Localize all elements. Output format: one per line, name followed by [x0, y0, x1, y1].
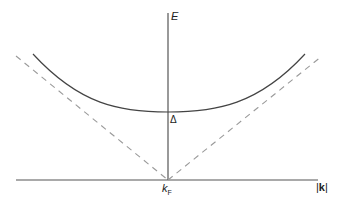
- gap-label: Δ: [170, 115, 177, 125]
- dashed-line-left: [16, 56, 168, 180]
- fermi-subscript: F: [168, 189, 172, 196]
- fermi-wavevector-label: kF: [162, 183, 172, 196]
- dashed-line-right: [168, 56, 322, 180]
- abs-bar-right: |: [325, 181, 328, 193]
- gapped-dispersion-curve: [33, 54, 305, 112]
- energy-axis-label: E: [171, 11, 178, 22]
- dispersion-diagram: [0, 0, 341, 201]
- k-axis-label: |k|: [316, 182, 328, 193]
